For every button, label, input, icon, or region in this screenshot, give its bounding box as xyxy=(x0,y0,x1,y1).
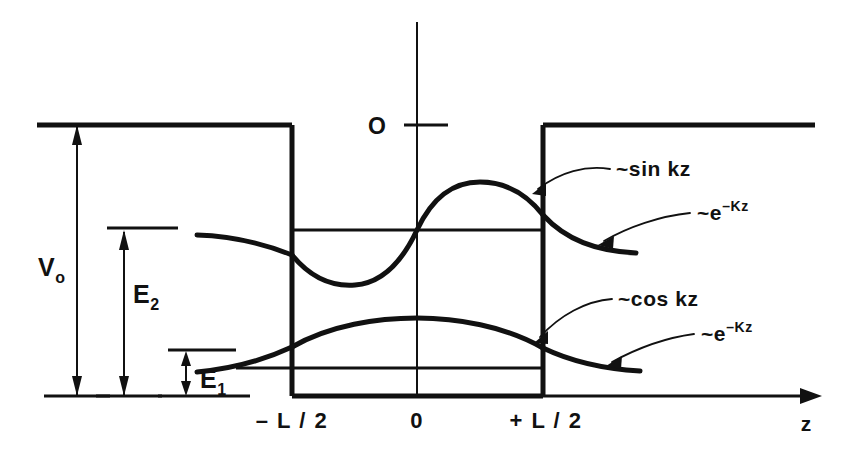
annotation-even-exterior: ~e–Kz xyxy=(701,319,753,345)
potential-well-figure: O Vo E2 E1 xyxy=(0,0,851,463)
energy-axis xyxy=(404,22,448,396)
annotation-leaders xyxy=(532,168,694,369)
z-axis-arrowhead xyxy=(800,388,822,404)
axis-tick-left: – L / 2 xyxy=(256,408,328,433)
e1-arrowhead-top xyxy=(181,351,191,366)
e2-arrowhead-bottom xyxy=(119,376,129,396)
v0-label: Vo xyxy=(38,253,65,286)
e1-arrowhead-bottom xyxy=(181,381,191,396)
e2-label: E2 xyxy=(133,280,160,313)
leader-even-interior xyxy=(540,299,612,337)
leader-odd-interior-arrowhead xyxy=(532,183,546,196)
annotation-odd-interior: ~sin kz xyxy=(616,157,691,180)
odd-right-exponential-tail xyxy=(543,215,636,253)
v0-arrowhead-bottom xyxy=(72,376,82,396)
annotation-odd-exterior: ~e–Kz xyxy=(697,198,749,224)
leader-even-exterior xyxy=(612,334,694,362)
even-right-exponential-tail xyxy=(543,348,640,371)
leader-odd-interior xyxy=(538,168,610,189)
v0-arrowhead-top xyxy=(72,125,82,145)
e2-measure xyxy=(96,228,178,396)
axis-name-z: z xyxy=(801,412,812,435)
wavefunction-even xyxy=(197,318,640,372)
annotation-even-interior: ~cos kz xyxy=(618,287,699,310)
zero-energy-label: O xyxy=(368,113,386,139)
leader-odd-exterior xyxy=(604,213,690,241)
potential-profile xyxy=(37,125,815,396)
axis-tick-origin: 0 xyxy=(410,408,424,433)
e2-arrowhead-top xyxy=(119,230,129,250)
axis-tick-right: + L / 2 xyxy=(509,408,582,433)
odd-left-exponential-tail xyxy=(197,235,292,255)
z-axis xyxy=(292,388,822,404)
